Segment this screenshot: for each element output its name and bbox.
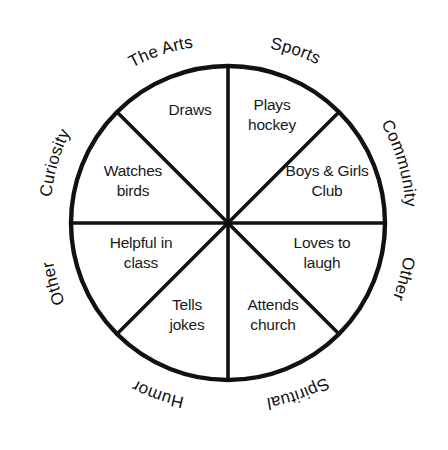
category-label-sports-text: Sports <box>269 34 324 68</box>
segment-sports-line1: Plays <box>254 96 291 113</box>
segment-curiosity-line1: Watches <box>104 162 163 179</box>
category-label-the-arts: The Arts <box>125 33 194 72</box>
category-label-curiosity: Curiosity <box>36 125 74 197</box>
category-label-curiosity-text: Curiosity <box>36 125 74 197</box>
segment-community-line1: Boys & Girls <box>286 162 369 179</box>
category-label-other-left-text: Other <box>38 260 69 308</box>
segment-humor-line1: Tells <box>172 296 202 313</box>
segment-community-line2: Club <box>311 182 342 199</box>
category-label-the-arts-text: The Arts <box>125 33 194 72</box>
segment-other-left-line2: class <box>124 254 159 271</box>
segment-other-right-line1: Loves to <box>294 234 351 251</box>
category-label-other-left: Other <box>38 260 69 308</box>
segment-other-right-line2: laugh <box>304 254 341 271</box>
wheel-canvas: Plays hockey Boys & Girls Club Loves to … <box>0 0 448 450</box>
segment-other-left-line1: Helpful in <box>110 234 173 251</box>
segment-the-arts-line1: Draws <box>169 101 212 118</box>
category-label-spiritual-text: Spiritual <box>265 374 332 413</box>
category-label-sports: Sports <box>269 34 324 68</box>
category-label-other-right-text: Other <box>389 256 419 304</box>
category-label-other-right: Other <box>389 256 419 304</box>
interest-wheel-diagram: Plays hockey Boys & Girls Club Loves to … <box>0 0 448 450</box>
segment-spiritual-line2: church <box>250 316 295 333</box>
category-label-spiritual: Spiritual <box>265 374 332 413</box>
category-label-humor: Humor <box>129 376 186 411</box>
category-label-humor-text: Humor <box>129 376 186 411</box>
segment-curiosity-line2: birds <box>117 182 150 199</box>
segment-sports-line2: hockey <box>248 116 296 133</box>
segment-spiritual-line1: Attends <box>247 296 299 313</box>
segment-humor-line2: jokes <box>168 316 205 333</box>
